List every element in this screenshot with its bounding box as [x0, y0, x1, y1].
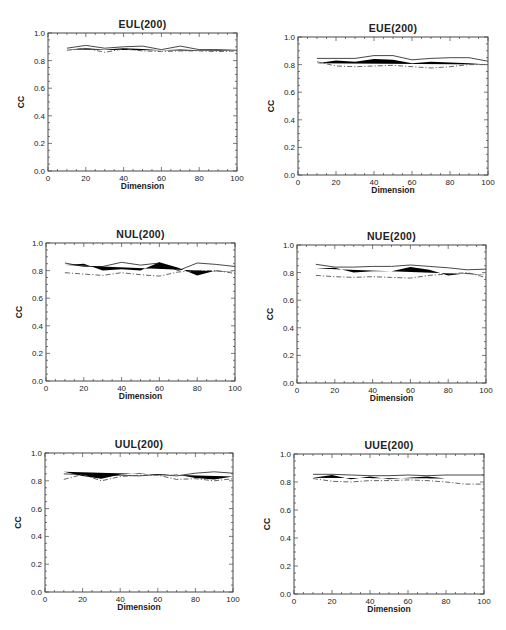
y-tick-label: 1.0 — [34, 29, 46, 38]
y-tick-label: 0.6 — [31, 505, 43, 514]
series-solid-line — [317, 56, 488, 62]
panel-title: UUL(200) — [115, 438, 164, 450]
x-tick-label: 100 — [230, 174, 244, 183]
series-solid-line — [313, 474, 484, 475]
panel-title: EUL(200) — [119, 18, 167, 30]
x-tick-label: 100 — [481, 178, 495, 187]
series-dash-dot-line — [316, 273, 486, 279]
panel-eul-200: EUL(200)0.00.20.40.60.81.0020406080100Di… — [16, 18, 244, 191]
y-tick-label: 1.0 — [31, 449, 43, 458]
y-tick-label: 1.0 — [280, 450, 292, 459]
x-axis-label: Dimension — [367, 604, 410, 614]
y-axis-label: CC — [262, 518, 272, 530]
x-tick-label: 0 — [295, 386, 300, 395]
x-tick-label: 20 — [332, 178, 341, 187]
y-tick-label: 0.8 — [283, 269, 295, 278]
panel-title: EUE(200) — [369, 22, 418, 34]
y-tick-label: 0.8 — [34, 57, 46, 66]
y-tick-label: 0.6 — [284, 88, 296, 97]
series-dashed-line — [317, 59, 488, 65]
y-tick-label: 0.4 — [284, 116, 296, 125]
panel-eue-200: EUE(200)0.00.20.40.60.81.0020406080100Di… — [266, 22, 495, 195]
y-tick-label: 0.6 — [34, 84, 46, 93]
y-tick-label: 0.4 — [280, 534, 292, 543]
y-tick-label: 0.4 — [32, 322, 44, 331]
y-tick-label: 0.8 — [31, 477, 43, 486]
x-tick-label: 100 — [228, 384, 242, 393]
x-tick-label: 20 — [330, 386, 339, 395]
x-tick-label: 0 — [46, 174, 51, 183]
y-axis-label: CC — [16, 96, 26, 108]
x-tick-label: 80 — [444, 386, 453, 395]
y-tick-label: 0.8 — [280, 478, 292, 487]
y-axis-label: CC — [14, 306, 24, 318]
y-tick-label: 1.0 — [283, 241, 295, 250]
x-tick-label: 100 — [479, 386, 493, 395]
x-tick-label: 80 — [193, 384, 202, 393]
x-tick-label: 100 — [477, 597, 491, 606]
figure-canvas: EUL(200)0.00.20.40.60.81.0020406080100Di… — [0, 0, 506, 630]
x-tick-label: 20 — [328, 597, 337, 606]
y-tick-label: 0.4 — [283, 324, 295, 333]
y-tick-label: 0.2 — [34, 139, 46, 148]
y-tick-label: 0.0 — [32, 377, 44, 386]
panel-uul-200: UUL(200)0.00.20.40.60.81.0020406080100Di… — [13, 438, 240, 612]
x-tick-label: 80 — [446, 178, 455, 187]
y-tick-label: 1.0 — [32, 239, 44, 248]
series-dash-dot-line — [313, 479, 484, 485]
x-tick-label: 20 — [81, 174, 90, 183]
x-axis-label: Dimension — [370, 393, 413, 403]
x-tick-label: 100 — [226, 595, 240, 604]
y-axis-label: CC — [265, 308, 275, 320]
y-tick-label: 0.2 — [284, 143, 296, 152]
panel-title: NUE(200) — [367, 230, 416, 242]
y-tick-label: 0.4 — [34, 112, 46, 121]
x-axis-label: Dimension — [119, 391, 162, 401]
y-tick-label: 1.0 — [284, 33, 296, 42]
y-tick-label: 0.2 — [32, 349, 44, 358]
x-tick-label: 0 — [296, 178, 301, 187]
y-tick-label: 0.6 — [32, 294, 44, 303]
x-tick-label: 80 — [195, 174, 204, 183]
panel-uue-200: UUE(200)0.00.20.40.60.81.0020406080100Di… — [262, 439, 491, 614]
y-tick-label: 0.0 — [34, 167, 46, 176]
x-axis-label: Dimension — [121, 181, 164, 191]
y-tick-label: 0.0 — [280, 590, 292, 599]
series-solid-line — [316, 264, 486, 270]
y-axis-label: CC — [266, 100, 276, 112]
panel-nul-200: NUL(200)0.00.20.40.60.81.0020406080100Di… — [14, 228, 242, 401]
x-tick-label: 0 — [44, 384, 49, 393]
y-tick-label: 0.0 — [284, 171, 296, 180]
y-tick-label: 0.0 — [283, 379, 295, 388]
x-tick-label: 20 — [79, 384, 88, 393]
y-tick-label: 0.8 — [284, 61, 296, 70]
y-tick-label: 0.6 — [283, 296, 295, 305]
panel-nue-200: NUE(200)0.00.20.40.60.81.0020406080100Di… — [265, 230, 493, 403]
panel-title: UUE(200) — [364, 439, 413, 451]
x-axis-label: Dimension — [117, 602, 160, 612]
y-tick-label: 0.6 — [280, 506, 292, 515]
y-tick-label: 0.2 — [31, 560, 43, 569]
x-tick-label: 80 — [191, 595, 200, 604]
series-dashed-line — [316, 267, 486, 275]
x-axis-label: Dimension — [371, 185, 414, 195]
x-tick-label: 0 — [43, 595, 48, 604]
y-tick-label: 0.8 — [32, 267, 44, 276]
y-axis-label: CC — [13, 516, 23, 528]
y-tick-label: 0.2 — [283, 351, 295, 360]
plot-frame — [48, 33, 237, 171]
x-tick-label: 80 — [442, 597, 451, 606]
y-tick-label: 0.2 — [280, 562, 292, 571]
figure-grid: EUL(200)0.00.20.40.60.81.0020406080100Di… — [0, 0, 506, 630]
y-tick-label: 0.4 — [31, 532, 43, 541]
x-tick-label: 20 — [78, 595, 87, 604]
x-tick-label: 0 — [292, 597, 297, 606]
panel-title: NUL(200) — [116, 228, 165, 240]
y-tick-label: 0.0 — [31, 588, 43, 597]
